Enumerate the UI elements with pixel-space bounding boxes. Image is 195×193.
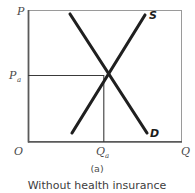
figure-caption: Without health insurance	[28, 179, 167, 192]
panel-identifier: (a)	[90, 163, 103, 174]
demand-curve-label: D	[150, 127, 159, 140]
supply-demand-chart: P Q O P a Q a S D (a) Without health ins…	[0, 0, 195, 193]
equilibrium-price-letter: P	[8, 69, 17, 82]
x-axis-label: Q	[181, 145, 190, 158]
origin-label: O	[14, 145, 23, 158]
supply-demand-figure: P Q O P a Q a S D (a) Without health ins…	[0, 0, 195, 193]
equilibrium-quantity-letter: Q	[96, 145, 105, 158]
supply-curve-label: S	[149, 9, 157, 22]
y-axis-label: P	[16, 5, 25, 18]
equilibrium-quantity-subscript: a	[105, 152, 109, 160]
equilibrium-price-subscript: a	[17, 76, 21, 84]
